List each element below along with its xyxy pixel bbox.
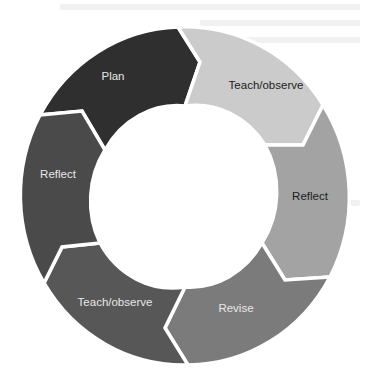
step-label: Reflect bbox=[292, 190, 329, 202]
step-label: Revise bbox=[218, 302, 253, 314]
cycle-diagram: Plan Teach/observe Reflect Revise Teach/… bbox=[0, 0, 365, 389]
step-label: Reflect bbox=[40, 168, 77, 180]
step-label: Plan bbox=[101, 70, 124, 82]
step-label: Teach/observe bbox=[229, 79, 304, 91]
center-hole bbox=[101, 106, 267, 286]
step-label: Teach/observe bbox=[78, 296, 153, 308]
